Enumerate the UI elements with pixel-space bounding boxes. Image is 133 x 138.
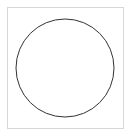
- circle-svg: [8, 8, 123, 128]
- figure-canvas: [0, 0, 133, 138]
- figure-panel: [7, 7, 124, 129]
- shape-drawing-surface: [8, 8, 123, 128]
- circle-outline-shape: [16, 19, 114, 117]
